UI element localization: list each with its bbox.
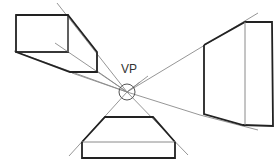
- bottom-box-top-face: [82, 117, 175, 142]
- perspective-drawing: [0, 0, 279, 168]
- right-box-outline: [204, 22, 273, 126]
- construction-lines: [14, 3, 258, 156]
- bottom-box-front-face: [82, 142, 175, 158]
- guide-line: [72, 73, 127, 92]
- bottom-box: [82, 117, 175, 158]
- one-point-perspective-diagram: VP: [0, 0, 279, 168]
- right-box: [204, 22, 273, 126]
- vanishing-point-label: VP: [121, 62, 137, 76]
- guide-line: [200, 115, 258, 130]
